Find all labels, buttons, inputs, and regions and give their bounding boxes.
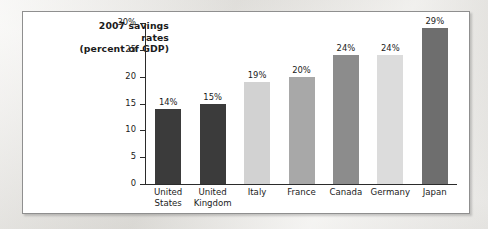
bar-series: 14%15%19%20%24%24%29% [146,23,457,184]
y-tick-0: 0 [140,184,145,185]
x-category-label-line: States [146,198,190,209]
plot-area: 051015202530% 14%15%19%20%24%24%29% [145,23,457,184]
bar-value-label: 24% [377,43,403,53]
bar-group: 15% [200,23,226,184]
x-category-label-line: Canada [324,187,368,198]
x-category-label-line: France [279,187,323,198]
y-tick-10: 10 [140,130,145,131]
bar-value-label: 14% [155,97,181,107]
bar-value-label: 29% [422,16,448,26]
x-category-label-line: Japan [413,187,457,198]
x-category-label-line: United [146,187,190,198]
bar [289,77,315,184]
bar [155,109,181,184]
figure-page: 2007 savings rates (percent of GDP) 0510… [0,0,488,229]
x-category-label: Canada [324,187,368,198]
x-category-label: France [279,187,323,198]
bar-group: 24% [377,23,403,184]
bar-group: 20% [289,23,315,184]
y-tick-label-30: 30% [117,17,136,27]
x-category-label: UnitedStates [146,187,190,208]
y-tick-25: 25 [140,50,145,51]
y-tick-label-25: 25 [125,44,136,54]
bar [333,55,359,184]
bar [200,104,226,185]
bar [377,55,403,184]
y-tick-label-0: 0 [131,178,136,188]
bar-group: 19% [244,23,270,184]
y-tick-5: 5 [140,157,145,158]
x-category-label-line: Kingdom [190,198,234,209]
y-tick-label-10: 10 [125,124,136,134]
y-tick-label-15: 15 [125,98,136,108]
chart-frame: 2007 savings rates (percent of GDP) 0510… [22,11,470,214]
y-tick-30: 30% [140,23,145,24]
y-tick-label-5: 5 [131,151,136,161]
bar-value-label: 15% [200,92,226,102]
bar-group: 24% [333,23,359,184]
y-tick-label-20: 20 [125,71,136,81]
bar [244,82,270,184]
x-axis-line [145,184,457,185]
x-category-label: UnitedKingdom [190,187,234,208]
bar-group: 14% [155,23,181,184]
x-category-label-line: Italy [235,187,279,198]
bar-value-label: 19% [244,70,270,80]
bar-group: 29% [422,23,448,184]
bar [422,28,448,184]
x-axis-category-labels: UnitedStatesUnitedKingdomItalyFranceCana… [146,187,457,215]
y-tick-20: 20 [140,77,145,78]
y-tick-15: 15 [140,104,145,105]
x-category-label: Italy [235,187,279,198]
x-category-label-line: Germany [368,187,412,198]
x-category-label: Japan [413,187,457,198]
bar-value-label: 20% [289,65,315,75]
x-category-label-line: United [190,187,234,198]
x-category-label: Germany [368,187,412,198]
bar-value-label: 24% [333,43,359,53]
